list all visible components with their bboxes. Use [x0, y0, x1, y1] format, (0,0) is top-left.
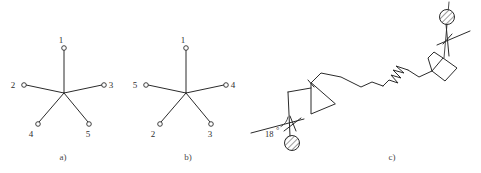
spoke-label-4: 4: [231, 80, 236, 90]
panel-a-labels: 1 2 3 4 5: [11, 35, 114, 139]
spoke-node-5: [144, 83, 149, 88]
spoke-node-3: [209, 122, 214, 127]
spoke-line-4: [186, 85, 224, 93]
panel-b-caption: b): [184, 152, 192, 162]
spoke-label-2: 2: [11, 80, 16, 90]
lower-vertical-link: [288, 92, 290, 136]
panel-c-caption: c): [389, 152, 396, 162]
figure-container: 1 2 3 4 5 a): [0, 0, 481, 173]
panel-b: 1 5 4 2 3 b): [133, 35, 236, 162]
panel-c: 18 °: [251, 2, 470, 162]
technical-diagram-svg: 1 2 3 4 5 a): [0, 0, 481, 173]
break-zigzag-symbol: [383, 66, 408, 86]
angle-value-label: 18: [265, 129, 274, 139]
left-chain-link: [311, 73, 383, 87]
spoke-label-3: 3: [109, 80, 114, 90]
spoke-label-4: 4: [29, 129, 34, 139]
spoke-line-2: [161, 93, 186, 122]
degree-symbol: °: [276, 125, 279, 135]
spoke-label-1: 1: [59, 35, 64, 45]
lower-joint-tick-b: [290, 116, 296, 131]
spoke-node-2: [158, 122, 163, 127]
panel-a-caption: a): [60, 152, 67, 162]
spoke-line-4: [39, 93, 64, 122]
spoke-node-3: [102, 83, 107, 88]
spoke-line-5: [64, 93, 88, 122]
spoke-line-3: [64, 85, 102, 93]
spoke-node-4: [36, 122, 41, 127]
lower-joint-tick-a: [284, 118, 301, 131]
upper-pin-joint: [440, 10, 455, 25]
spoke-node-1: [184, 46, 189, 51]
link-to-triangle: [288, 88, 311, 92]
spoke-label-3: 3: [208, 129, 213, 139]
panel-b-spoke-lines: [148, 50, 224, 122]
spoke-node-2: [22, 83, 27, 88]
panel-a-spoke-lines: [26, 50, 102, 122]
spoke-label-1: 1: [181, 35, 186, 45]
spoke-node-4: [224, 83, 229, 88]
crank-block: [432, 58, 457, 81]
lower-pin-joint: [285, 136, 300, 151]
spoke-label-5: 5: [86, 129, 91, 139]
panel-b-labels: 1 5 4 2 3: [133, 35, 236, 139]
spoke-node-5: [87, 122, 92, 127]
spoke-line-2: [26, 85, 64, 93]
spoke-label-2: 2: [151, 129, 156, 139]
triangle-element: [311, 83, 335, 114]
spoke-node-1: [62, 46, 67, 51]
spoke-label-5: 5: [133, 80, 138, 90]
panel-a: 1 2 3 4 5 a): [11, 35, 114, 162]
spoke-line-5: [148, 85, 186, 93]
upper-joint-tick-a: [437, 31, 470, 45]
spoke-line-3: [186, 93, 210, 122]
